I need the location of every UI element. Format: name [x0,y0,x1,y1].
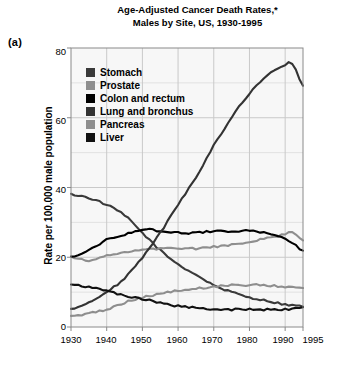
legend-label-stomach: Stomach [100,67,142,78]
x-tick-1930: 1930 [54,334,88,345]
x-tick-1970: 1970 [195,334,229,345]
panel-label: (a) [8,36,22,48]
legend-swatch-lung-and-bronchus [86,107,95,116]
legend-swatch-stomach [86,68,95,77]
legend-item-pancreas: Pancreas [86,118,193,131]
y-tick-0: 0 [40,321,66,332]
y-tick-80: 80 [40,46,66,57]
legend-label-colon-and-rectum: Colon and rectum [100,93,185,104]
legend-label-pancreas: Pancreas [100,119,144,130]
legend: Stomach Prostate Colon and rectum Lung a… [86,66,193,144]
x-tick-1990: 1990 [266,334,300,345]
x-tick-1940: 1940 [89,334,123,345]
legend-swatch-pancreas [86,120,95,129]
legend-label-prostate: Prostate [100,80,140,91]
chart-title-line1: Age-Adjusted Cancer Death Rates,* [60,4,335,17]
legend-label-liver: Liver [100,132,124,143]
x-tick-1950: 1950 [124,334,158,345]
legend-swatch-colon-and-rectum [86,94,95,103]
legend-item-liver: Liver [86,131,193,144]
legend-item-prostate: Prostate [86,79,193,92]
cancer-death-rates-figure: (a) Age-Adjusted Cancer Death Rates,* Ma… [0,0,340,366]
legend-item-stomach: Stomach [86,66,193,79]
y-tick-60: 60 [40,115,66,126]
legend-swatch-prostate [86,81,95,90]
y-tick-20: 20 [40,252,66,263]
chart-title-line2: Males by Site, US, 1930-1995 [60,17,335,30]
legend-swatch-liver [86,133,95,142]
y-tick-40: 40 [40,184,66,195]
x-tick-1980: 1980 [230,334,264,345]
x-tick-1995: 1995 [296,334,330,345]
legend-label-lung-and-bronchus: Lung and bronchus [100,106,193,117]
legend-item-lung-and-bronchus: Lung and bronchus [86,105,193,118]
x-tick-1960: 1960 [160,334,194,345]
chart-title: Age-Adjusted Cancer Death Rates,* Males … [60,4,335,29]
legend-item-colon-and-rectum: Colon and rectum [86,92,193,105]
